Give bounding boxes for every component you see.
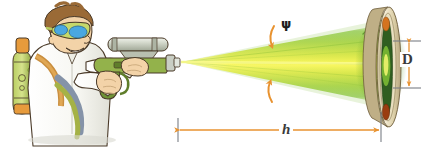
laser-divergence-figure: ψ h D (0, 0, 427, 150)
dimension-annotations (0, 0, 427, 150)
psi-arc-upper (270, 26, 274, 46)
psi-angle-arcs (268, 26, 274, 102)
psi-angle-label: ψ (281, 17, 291, 30)
h-distance-label: h (279, 122, 293, 137)
psi-arc-lower (268, 82, 272, 102)
d-diameter-label: D (400, 52, 415, 67)
